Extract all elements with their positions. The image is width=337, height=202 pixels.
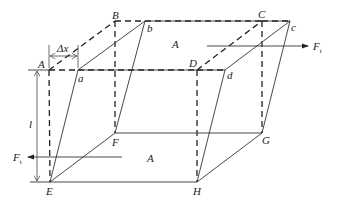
edge-E-F	[50, 133, 115, 182]
force-bottom-subscript: t	[20, 158, 22, 166]
vertex-label-E: E	[45, 185, 53, 197]
svg-text:Ft: Ft	[312, 40, 322, 55]
original-box	[49, 21, 290, 182]
length-label: l	[29, 118, 32, 130]
length-dimension: l	[29, 71, 37, 181]
area-top-label: A	[171, 38, 179, 50]
edge-D-C	[197, 21, 262, 70]
edge-a-b	[78, 21, 145, 70]
area-bottom-label: A	[146, 152, 154, 164]
edge-H-G	[197, 133, 262, 182]
edge-d-H	[197, 70, 225, 182]
edge-c-G	[262, 21, 290, 133]
vertex-label-A: A	[37, 58, 45, 70]
force-top-subscript: t	[320, 47, 322, 55]
vertex-label-D: D	[188, 57, 197, 69]
edge-d-c	[225, 21, 290, 70]
vertex-label-b: b	[147, 22, 153, 34]
vertex-label-a: a	[78, 72, 84, 84]
edge-a-E	[50, 70, 78, 182]
force-bottom: Ft	[12, 151, 122, 166]
shear-diagram: Δx l Ft Ft A A A a B b C c D d E F G H	[0, 0, 337, 202]
vertex-label-B: B	[112, 9, 119, 21]
vertex-label-H: H	[192, 185, 202, 197]
vertex-label-F: F	[111, 136, 119, 148]
vertex-label-d: d	[227, 69, 233, 81]
vertex-label-C: C	[258, 8, 266, 20]
vertex-label-G: G	[262, 134, 270, 146]
svg-text:Ft: Ft	[12, 151, 22, 166]
delta-x-label: Δx	[56, 42, 68, 54]
edge-b-F	[115, 21, 145, 133]
edge-A-E	[49, 70, 50, 182]
force-top: Ft	[207, 40, 322, 55]
delta-x-dimension: Δx	[49, 42, 78, 68]
vertex-label-c: c	[291, 21, 296, 33]
